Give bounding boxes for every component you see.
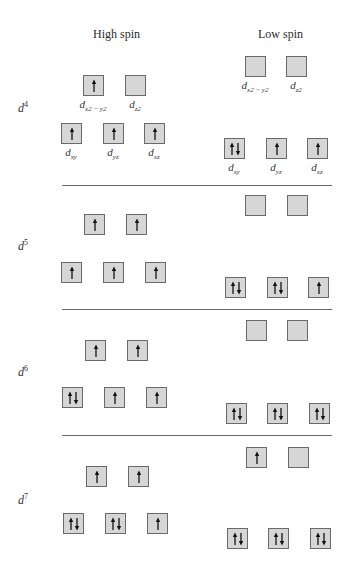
spin-up-arrow-icon bbox=[254, 451, 258, 464]
spin-up-arrow-icon bbox=[230, 281, 234, 294]
spin-up-arrow-icon bbox=[134, 218, 138, 231]
label-d4-high-dxy: dxy bbox=[51, 146, 91, 161]
spin-up-arrow-icon bbox=[69, 266, 73, 279]
spin-down-arrow-icon bbox=[320, 408, 324, 421]
config-label-d4: d4 bbox=[18, 100, 28, 116]
orbital-box-d7-high-dxz bbox=[147, 513, 168, 534]
orbital-box-d5-low-dx2y2 bbox=[245, 195, 266, 216]
orbital-box-d6-low-dxz bbox=[309, 403, 330, 424]
spin-up-arrow-icon bbox=[92, 218, 96, 231]
spin-up-arrow-icon bbox=[154, 391, 158, 404]
spin-down-arrow-icon bbox=[236, 282, 240, 295]
spin-down-arrow-icon bbox=[237, 408, 241, 421]
orbital-box-d5-low-dyz bbox=[267, 277, 288, 298]
divider-d5-d6 bbox=[62, 309, 332, 310]
spin-up-arrow-icon bbox=[136, 470, 140, 483]
divider-d4-d5 bbox=[62, 185, 332, 186]
orbital-box-d4-high-dz2 bbox=[125, 75, 146, 96]
label-d4-low-dxy: dxy bbox=[214, 161, 254, 176]
orbital-box-d4-low-dxz bbox=[307, 138, 328, 159]
orbital-box-d7-low-dxy bbox=[227, 528, 248, 549]
spin-up-arrow-icon bbox=[68, 517, 72, 530]
spin-up-arrow-icon bbox=[111, 127, 115, 140]
orbital-box-d4-high-dyz bbox=[103, 123, 124, 144]
orbital-box-d7-high-dz2 bbox=[128, 466, 149, 487]
orbital-box-d5-high-dxy bbox=[61, 262, 82, 283]
orbital-box-d4-high-dx2y2 bbox=[83, 75, 104, 96]
label-d4-low-dz2: dz2 bbox=[276, 79, 316, 94]
orbital-box-d7-low-dxz bbox=[310, 528, 331, 549]
orbital-box-d6-high-dyz bbox=[104, 387, 125, 408]
orbital-box-d5-low-dxy bbox=[225, 277, 246, 298]
spin-up-arrow-icon bbox=[93, 344, 97, 357]
low-spin-header: Low spin bbox=[258, 27, 303, 42]
orbital-box-d6-low-dxy bbox=[226, 403, 247, 424]
spin-down-arrow-icon bbox=[278, 408, 282, 421]
orbital-box-d4-low-dxy bbox=[224, 138, 245, 159]
spin-down-arrow-icon bbox=[116, 518, 120, 531]
spin-up-arrow-icon bbox=[110, 517, 114, 530]
orbital-box-d6-high-dx2y2 bbox=[85, 340, 106, 361]
spin-up-arrow-icon bbox=[232, 532, 236, 545]
spin-up-arrow-icon bbox=[153, 266, 157, 279]
orbital-box-d4-low-dx2y2 bbox=[245, 56, 266, 77]
orbital-box-d4-high-dxy bbox=[61, 123, 82, 144]
orbital-box-d5-high-dz2 bbox=[126, 214, 147, 235]
spin-up-arrow-icon bbox=[94, 470, 98, 483]
orbital-box-d6-low-dx2y2 bbox=[246, 320, 267, 341]
orbital-box-d4-high-dxz bbox=[144, 123, 165, 144]
orbital-box-d4-low-dyz bbox=[266, 138, 287, 159]
spin-down-arrow-icon bbox=[74, 518, 78, 531]
label-d4-high-dyz: dyz bbox=[93, 146, 133, 161]
spin-down-arrow-icon bbox=[73, 392, 77, 405]
orbital-box-d6-high-dxz bbox=[146, 387, 167, 408]
spin-up-arrow-icon bbox=[231, 407, 235, 420]
spin-up-arrow-icon bbox=[316, 281, 320, 294]
spin-up-arrow-icon bbox=[155, 517, 159, 530]
spin-up-arrow-icon bbox=[315, 532, 319, 545]
spin-up-arrow-icon bbox=[67, 391, 71, 404]
orbital-box-d5-high-dx2y2 bbox=[84, 214, 105, 235]
spin-down-arrow-icon bbox=[321, 533, 325, 546]
orbital-box-d4-low-dz2 bbox=[286, 56, 307, 77]
spin-up-arrow-icon bbox=[272, 407, 276, 420]
label-d4-high-dz2: dz2 bbox=[115, 98, 155, 113]
orbital-box-d5-low-dz2 bbox=[287, 195, 308, 216]
spin-up-arrow-icon bbox=[112, 391, 116, 404]
orbital-box-d7-low-dyz bbox=[268, 528, 289, 549]
config-label-d6: d6 bbox=[18, 364, 28, 380]
config-label-d5: d5 bbox=[18, 238, 28, 254]
spin-down-arrow-icon bbox=[235, 143, 239, 156]
spin-up-arrow-icon bbox=[273, 532, 277, 545]
orbital-box-d7-high-dxy bbox=[63, 513, 84, 534]
label-d4-low-dx2y2: dx2 − y2 bbox=[235, 79, 275, 94]
spin-down-arrow-icon bbox=[279, 533, 283, 546]
spin-up-arrow-icon bbox=[272, 281, 276, 294]
orbital-box-d6-high-dxy bbox=[62, 387, 83, 408]
orbital-box-d6-low-dyz bbox=[267, 403, 288, 424]
config-label-d7: d7 bbox=[18, 492, 28, 508]
orbital-box-d6-low-dz2 bbox=[287, 320, 308, 341]
spin-up-arrow-icon bbox=[69, 127, 73, 140]
orbital-box-d7-high-dyz bbox=[105, 513, 126, 534]
orbital-box-d5-high-dxz bbox=[145, 262, 166, 283]
spin-down-arrow-icon bbox=[238, 533, 242, 546]
label-d4-high-dx2y2: dx2 − y2 bbox=[73, 98, 113, 113]
orbital-box-d7-high-dx2y2 bbox=[86, 466, 107, 487]
spin-up-arrow-icon bbox=[314, 407, 318, 420]
label-d4-low-dxz: dxz bbox=[297, 161, 337, 176]
orbital-box-d5-low-dxz bbox=[308, 277, 329, 298]
orbital-box-d7-low-dz2 bbox=[288, 447, 309, 468]
spin-up-arrow-icon bbox=[315, 142, 319, 155]
spin-up-arrow-icon bbox=[274, 142, 278, 155]
spin-up-arrow-icon bbox=[91, 79, 95, 92]
label-d4-high-dxz: dxz bbox=[134, 146, 174, 161]
spin-up-arrow-icon bbox=[111, 266, 115, 279]
orbital-box-d7-low-dx2y2 bbox=[246, 447, 267, 468]
spin-up-arrow-icon bbox=[135, 344, 139, 357]
orbital-box-d5-high-dyz bbox=[103, 262, 124, 283]
orbital-box-d6-high-dz2 bbox=[127, 340, 148, 361]
label-d4-low-dyz: dyz bbox=[256, 161, 296, 176]
spin-up-arrow-icon bbox=[229, 142, 233, 155]
spin-up-arrow-icon bbox=[152, 127, 156, 140]
